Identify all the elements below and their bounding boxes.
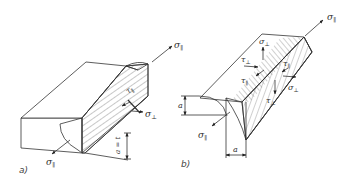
sigma-par-top-arrow-a xyxy=(152,46,172,62)
label-dimension-a-vertical: a xyxy=(178,101,183,110)
label-sigma-par-bottom-a: σ∥ xyxy=(46,157,55,168)
label-sigma-par-top-b: σ∥ xyxy=(327,12,336,23)
label-sigma-par-bottom-b: σ∥ xyxy=(198,130,207,141)
label-dimension-a-horizontal: a xyxy=(233,145,238,154)
label-sigma-par-top-a: σ∥ xyxy=(174,40,183,51)
panel-a xyxy=(21,46,172,160)
caption-b: b) xyxy=(181,159,190,169)
weld-stress-diagram: σ∥ σ∥ σ⊥ τ∥ a = t a) xyxy=(0,0,351,183)
label-sigma-perp-right-b: σ⊥ xyxy=(288,83,299,93)
label-dimension-a-t: a = t xyxy=(114,137,122,154)
label-sigma-perp-a: σ⊥ xyxy=(145,109,157,120)
caption-a: a) xyxy=(19,165,28,175)
